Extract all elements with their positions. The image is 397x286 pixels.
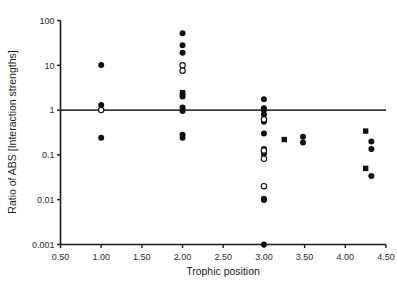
scatter-plot: 1001010.10.010.001 0.501.001.502.002.503… — [0, 0, 397, 286]
data-point — [368, 138, 374, 144]
data-point — [261, 184, 266, 189]
data-point — [180, 50, 186, 56]
x-axis-title: Trophic position — [186, 265, 260, 277]
data-point — [368, 173, 374, 179]
x-tick-label: 0.50 — [52, 252, 70, 262]
x-tick-label: 4.50 — [377, 252, 395, 262]
y-tick-label: 0.01 — [37, 195, 55, 205]
data-point — [180, 42, 186, 48]
x-tick-label: 2.50 — [214, 252, 232, 262]
data-point — [261, 156, 266, 161]
chart-figure: 1001010.10.010.001 0.501.001.502.002.503… — [0, 0, 397, 286]
data-point — [282, 137, 287, 142]
y-tick-label: 0.001 — [32, 240, 55, 250]
data-point — [180, 135, 186, 141]
x-tick-label: 4.00 — [337, 252, 355, 262]
data-point — [98, 135, 104, 141]
data-point — [261, 197, 267, 203]
data-point — [261, 117, 266, 122]
x-tick-label: 2.00 — [174, 252, 192, 262]
data-markers — [98, 30, 374, 247]
data-point — [180, 90, 185, 95]
data-point — [180, 68, 185, 73]
x-tick-label: 1.50 — [133, 252, 151, 262]
data-point — [98, 107, 103, 112]
data-point — [261, 131, 267, 137]
data-point — [180, 30, 186, 36]
y-tick-label: 100 — [39, 16, 54, 26]
data-point — [98, 62, 104, 68]
x-axis-ticks: 0.501.001.502.002.503.003.504.004.50 — [52, 245, 395, 262]
y-tick-label: 10 — [44, 61, 54, 71]
data-point — [300, 139, 306, 145]
data-point — [261, 148, 266, 153]
data-point — [363, 128, 368, 133]
x-tick-label: 3.00 — [255, 252, 273, 262]
data-point — [180, 63, 185, 68]
y-axis-ticks: 1001010.10.010.001 — [32, 16, 61, 250]
y-axis-title: Ratio of ABS [Interaction strengths] — [6, 50, 18, 214]
y-tick-label: 1 — [49, 105, 54, 115]
data-point — [368, 146, 374, 152]
data-point — [180, 108, 186, 114]
x-tick-label: 3.50 — [296, 252, 314, 262]
data-point — [261, 242, 267, 248]
x-tick-label: 1.00 — [92, 252, 110, 262]
data-point — [363, 166, 368, 171]
data-point — [300, 134, 306, 140]
data-point — [261, 96, 267, 102]
y-tick-label: 0.1 — [42, 150, 55, 160]
